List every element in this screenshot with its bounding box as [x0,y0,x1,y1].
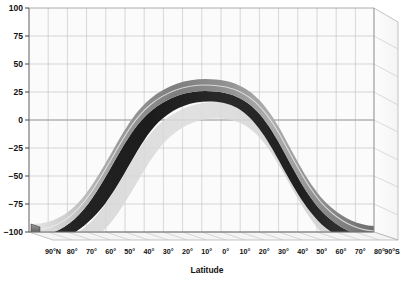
x-tick-label: 40° [144,247,155,256]
x-axis-title: Latitude [190,265,223,275]
x-tick-label: 40° [297,247,308,256]
x-tick-label: 20° [182,247,193,256]
x-tick-label: 50° [316,247,327,256]
x-tick-label: 70° [86,247,97,256]
chart-container: 100 75 50 25 0 −25 −50 −75 −100 90°N 80°… [0,0,404,282]
y-tick-label: 25 [14,87,24,97]
x-tick-label: 30° [278,247,289,256]
x-tick-label: 30° [163,247,174,256]
y-tick-label: −100 [4,227,23,237]
x-tick-label: 10° [240,247,251,256]
y-tick-label: −75 [9,199,24,209]
latitude-profile-chart: 100 75 50 25 0 −25 −50 −75 −100 90°N 80°… [0,0,404,282]
x-tick-label: 10° [201,247,212,256]
x-tick-label: 80° [67,247,78,256]
y-tick-label: 0 [18,115,23,125]
x-tick-label: 90°S [384,247,400,256]
y-tick-label: 50 [14,59,24,69]
x-tick-label: 60° [336,247,347,256]
x-tick-label: 70° [355,247,366,256]
y-tickmarks [25,8,29,232]
x-tick-label: 20° [259,247,270,256]
y-tick-label: 75 [14,31,24,41]
x-tick-label: 90°N [45,247,61,256]
x-tick-label: 0° [222,247,229,256]
y-tick-label: −25 [9,143,24,153]
x-tick-label: 60° [105,247,116,256]
y-tick-label: 100 [9,3,23,13]
x-tick-label: 50° [124,247,135,256]
y-tick-label: −50 [9,171,24,181]
